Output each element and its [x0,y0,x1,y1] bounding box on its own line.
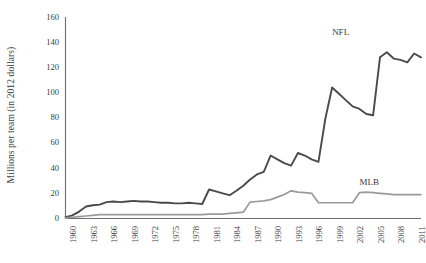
series-lines [66,52,422,218]
chart-container: Millions per team (in 2012 dollars) 1601… [0,0,426,263]
series-line-mlb [66,191,422,218]
series-label-mlb: MLB [359,177,379,187]
axis-lines [65,17,421,219]
series-label-nfl: NFL [332,27,349,37]
plot-area [0,0,426,263]
